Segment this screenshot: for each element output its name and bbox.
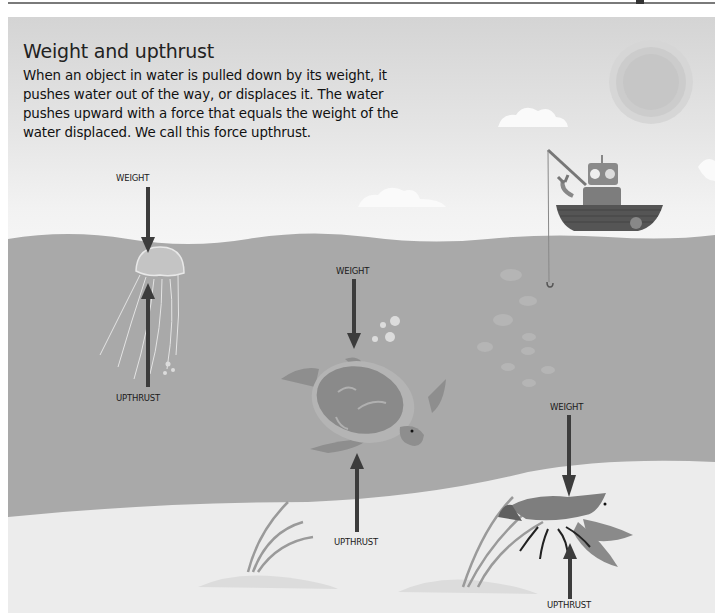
sun-icon xyxy=(609,40,693,124)
page-top-rule xyxy=(8,2,715,4)
jellyfish-weight-label: WEIGHT xyxy=(116,173,149,183)
intro-paragraph: When an object in water is pulled down b… xyxy=(23,66,433,142)
lobster-upthrust-label: UPTHRUST xyxy=(547,600,591,610)
turtle-upthrust-label: UPTHRUST xyxy=(334,537,378,547)
illustration-panel: Weight and upthrust When an object in wa… xyxy=(8,17,715,613)
lobster-weight-label: WEIGHT xyxy=(550,402,583,412)
page-title: Weight and upthrust xyxy=(23,40,214,62)
page-top-marker xyxy=(636,0,644,4)
turtle-weight-label: WEIGHT xyxy=(336,266,369,276)
jellyfish-upthrust-label: UPTHRUST xyxy=(116,393,160,403)
